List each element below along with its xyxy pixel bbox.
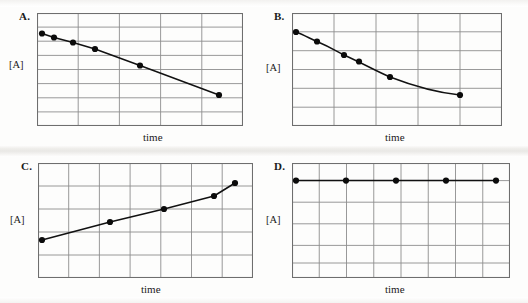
panel-c-label: C.	[21, 161, 32, 172]
panel-c-y-axis-label: [A]	[10, 215, 25, 226]
panel-b-data-points	[293, 29, 463, 98]
panel-d-label: D.	[274, 161, 285, 172]
panel-a-plot	[37, 13, 243, 126]
panel-a-horizontal-gridlines	[37, 27, 243, 112]
panel-b-data-curve	[296, 32, 460, 95]
panel-c-vertical-gridlines	[69, 163, 223, 278]
panel-b-label: B.	[274, 11, 285, 22]
scan-artifact-bottom	[0, 297, 528, 303]
panel-d-plot	[292, 163, 510, 278]
panel-c-plot	[38, 163, 253, 278]
panel-b-x-axis-label: time	[385, 132, 405, 143]
panel-a-x-axis-label: time	[143, 132, 163, 143]
panel-b-y-axis-label: [A]	[266, 63, 281, 74]
panel-c-horizontal-gridlines	[38, 186, 253, 255]
panel-c-plot-border	[39, 164, 253, 278]
panel-d-x-axis-label: time	[385, 284, 405, 295]
panel-a-data-line	[42, 34, 219, 96]
panel-a-label: A.	[19, 11, 30, 22]
panel-a-y-axis-label: [A]	[9, 60, 24, 71]
scan-artifact-top	[0, 0, 528, 7]
panel-b-plot	[292, 13, 502, 126]
scan-artifact-middle	[0, 145, 528, 157]
panel-d-y-axis-label: [A]	[266, 215, 281, 226]
panel-b-horizontal-gridlines	[292, 32, 502, 107]
panel-c-x-axis-label: time	[141, 284, 161, 295]
panel-c-data-line	[42, 183, 235, 240]
